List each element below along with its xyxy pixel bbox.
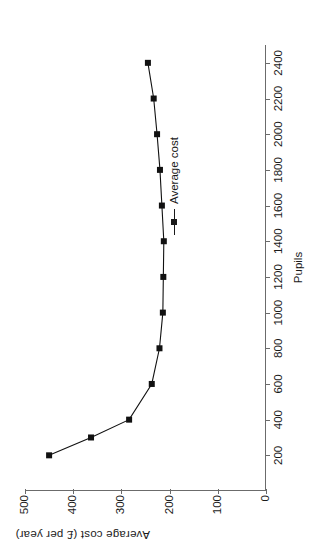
data-point [160, 310, 166, 316]
data-point [160, 274, 166, 280]
data-point [154, 131, 160, 137]
data-point [46, 452, 52, 458]
data-point [159, 203, 165, 209]
legend: Average cost [168, 137, 180, 235]
legend-label-average-cost: Average cost [168, 137, 180, 204]
legend-marker-average-cost [174, 209, 175, 235]
data-point [157, 167, 163, 173]
data-point [145, 60, 151, 66]
data-point [88, 434, 94, 440]
data-point [149, 381, 155, 387]
data-point [156, 345, 162, 351]
series-markers-average-cost [46, 60, 167, 458]
legend-square-icon [171, 219, 177, 225]
series-line-average-cost [49, 63, 164, 455]
data-point [151, 96, 157, 102]
data-point [161, 238, 167, 244]
data-point [126, 417, 132, 423]
